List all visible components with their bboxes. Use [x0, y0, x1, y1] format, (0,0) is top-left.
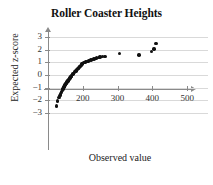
- y-tick-label: 0: [22, 69, 42, 79]
- x-tick-label: 500: [173, 93, 201, 103]
- qq-plot-chart: Roller Coaster Heights 3210−1−2−3 200300…: [0, 0, 213, 185]
- x-tick-label: 200: [69, 93, 97, 103]
- x-tick: [118, 86, 119, 91]
- gridline: [48, 113, 208, 114]
- y-axis-arrow-icon: [45, 27, 51, 32]
- y-tick-label: −2: [22, 94, 42, 104]
- gridline: [48, 62, 208, 63]
- data-point: [137, 53, 140, 56]
- y-tick-label: 2: [22, 44, 42, 54]
- y-tick-label: 1: [22, 56, 42, 66]
- y-tick: [45, 62, 50, 63]
- x-tick: [187, 86, 188, 91]
- x-tick: [83, 86, 84, 91]
- y-tick: [45, 88, 50, 89]
- data-point: [104, 55, 107, 58]
- gridline: [48, 37, 208, 38]
- chart-title: Roller Coaster Heights: [0, 7, 213, 19]
- y-axis-line: [48, 30, 49, 150]
- data-point: [56, 99, 59, 102]
- y-tick: [45, 100, 50, 101]
- y-tick-label: 3: [22, 31, 42, 41]
- y-tick: [45, 37, 50, 38]
- gridline: [48, 88, 208, 89]
- data-point: [152, 47, 155, 50]
- y-axis-title: Expected z-score: [9, 18, 20, 118]
- y-tick: [45, 50, 50, 51]
- gridline: [48, 50, 208, 51]
- data-point: [118, 52, 121, 55]
- data-point: [154, 42, 157, 45]
- y-tick-label: −3: [22, 107, 42, 117]
- x-tick-label: 300: [104, 93, 132, 103]
- x-axis-title: Observed value: [40, 152, 200, 163]
- y-tick: [45, 113, 50, 114]
- x-tick: [152, 86, 153, 91]
- data-point: [55, 104, 58, 107]
- y-tick: [45, 75, 50, 76]
- y-tick-label: −1: [22, 82, 42, 92]
- x-tick-label: 400: [138, 93, 166, 103]
